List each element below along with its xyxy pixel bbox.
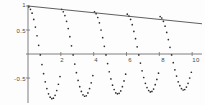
data-point — [64, 15, 66, 17]
data-point — [169, 46, 171, 48]
data-point — [39, 54, 41, 56]
x-tick-label-4: 4 — [91, 57, 101, 63]
y-tick-label-neg-0-5: -0.5 — [0, 76, 26, 82]
data-point — [56, 90, 58, 92]
data-point — [38, 45, 40, 47]
data-point — [31, 12, 33, 14]
data-point — [122, 86, 124, 88]
data-point — [110, 78, 112, 80]
data-point — [105, 54, 107, 56]
data-point — [100, 29, 102, 31]
data-point — [59, 76, 61, 78]
data-point — [141, 70, 143, 72]
data-point — [69, 36, 71, 38]
data-point — [138, 54, 140, 56]
chart-figure: 1 0.5 -0.5 2 4 6 8 10 — [0, 0, 205, 105]
data-point — [43, 73, 45, 75]
data-point — [90, 82, 92, 84]
data-point — [143, 77, 145, 79]
data-point — [146, 87, 148, 89]
data-point — [108, 71, 110, 73]
data-point — [72, 54, 74, 56]
data-point — [123, 80, 125, 82]
envelope-line-group — [28, 6, 202, 24]
data-point — [182, 89, 184, 91]
x-tick-label-8: 8 — [158, 57, 168, 63]
data-point — [51, 98, 53, 100]
data-point — [85, 95, 87, 97]
data-point — [187, 82, 189, 84]
data-point — [120, 90, 122, 92]
data-point — [151, 91, 153, 93]
y-tick-label-1: 1 — [16, 2, 26, 8]
data-point — [135, 38, 137, 40]
data-point — [181, 88, 183, 90]
data-point — [184, 89, 186, 91]
x-axis — [26, 52, 202, 56]
data-point — [36, 35, 38, 37]
data-point — [158, 72, 160, 74]
data-point — [177, 81, 179, 83]
data-point — [112, 84, 114, 86]
data-point — [140, 62, 142, 64]
data-point — [66, 21, 68, 23]
data-point — [145, 82, 147, 84]
data-point — [67, 28, 69, 30]
data-point — [153, 88, 155, 90]
data-point — [30, 9, 32, 11]
data-point — [186, 86, 188, 88]
data-point — [131, 24, 133, 26]
x-tick-label-10: 10 — [189, 57, 203, 63]
data-point — [166, 32, 168, 34]
data-point — [159, 16, 161, 18]
data-point — [190, 71, 192, 73]
data-point — [103, 45, 105, 47]
data-point — [76, 72, 78, 74]
data-point — [179, 85, 181, 87]
data-point — [176, 75, 178, 77]
data-point — [41, 64, 43, 66]
data-point — [156, 79, 158, 81]
data-point — [74, 63, 76, 65]
data-point — [49, 96, 51, 98]
data-point — [149, 91, 151, 93]
data-point — [92, 75, 94, 77]
data-point — [71, 45, 73, 47]
data-point — [154, 84, 156, 86]
data-point — [87, 92, 89, 94]
data-point — [84, 95, 86, 97]
x-tick-label-2: 2 — [57, 57, 67, 63]
data-point — [97, 17, 99, 19]
data-point — [81, 91, 83, 93]
x-tick-label-6: 6 — [125, 57, 135, 63]
data-point — [107, 63, 109, 65]
data-point — [35, 26, 37, 28]
data-point — [171, 54, 173, 56]
data-point — [148, 90, 150, 92]
data-point — [58, 83, 60, 85]
envelope-line — [28, 6, 202, 24]
data-point — [174, 69, 176, 71]
data-point — [79, 86, 81, 88]
data-point — [89, 88, 91, 90]
data-point — [136, 46, 138, 48]
data-point — [117, 93, 119, 95]
scatter-plot-canvas — [0, 0, 205, 105]
data-point — [133, 31, 135, 33]
data-point — [99, 22, 101, 24]
data-point — [164, 25, 166, 27]
data-point — [54, 94, 56, 96]
data-point — [48, 93, 50, 95]
data-point — [46, 88, 48, 90]
data-point — [130, 19, 132, 21]
data-point — [33, 19, 35, 21]
data-point — [82, 94, 84, 96]
data-point — [168, 39, 170, 41]
data-point — [118, 93, 120, 95]
data-point — [172, 62, 174, 64]
data-point — [102, 37, 104, 39]
data-point — [53, 97, 55, 99]
data-point — [113, 89, 115, 91]
data-point — [126, 13, 128, 15]
data-point — [125, 73, 127, 75]
